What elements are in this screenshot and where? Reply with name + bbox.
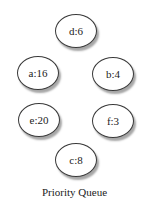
node-f: f:3	[92, 104, 134, 138]
node-label: d:6	[69, 25, 83, 37]
node-c: c:8	[55, 143, 97, 177]
node-label: e:20	[30, 114, 49, 126]
node-e: e:20	[18, 103, 60, 137]
node-label: b:4	[106, 68, 120, 80]
node-d: d:6	[55, 14, 97, 48]
node-label: f:3	[107, 115, 119, 127]
node-label: a:16	[29, 67, 48, 79]
node-label: c:8	[69, 154, 82, 166]
node-a: a:16	[17, 56, 59, 90]
diagram-caption: Priority Queue	[0, 186, 149, 198]
node-b: b:4	[92, 57, 134, 91]
